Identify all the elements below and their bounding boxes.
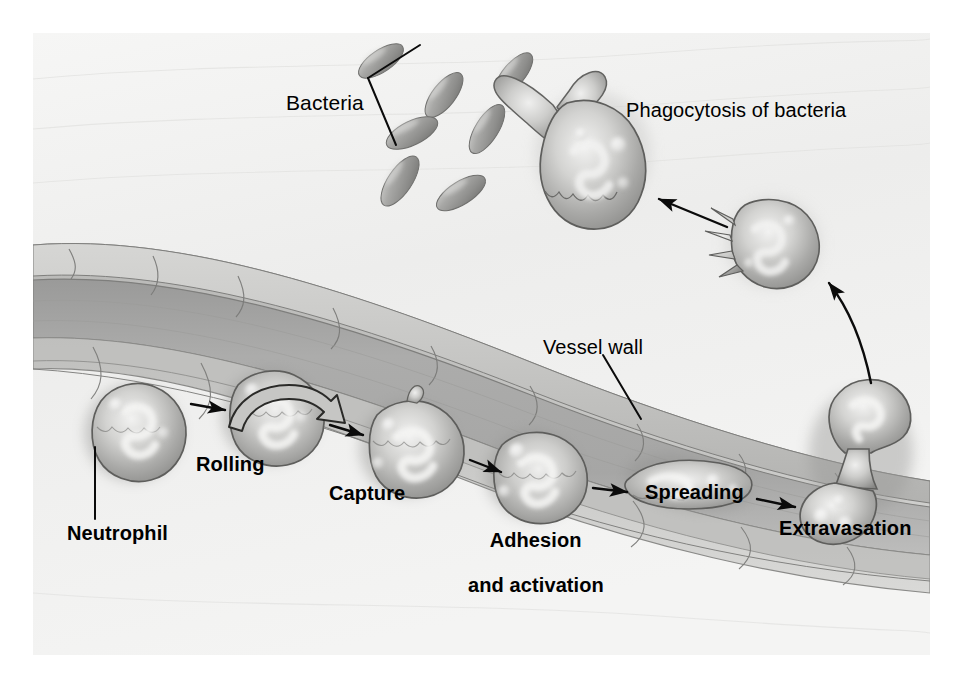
granule (617, 177, 629, 189)
label-adhesion-line2: and activation (468, 574, 604, 596)
granule (372, 457, 384, 469)
label-adhesion-line1: Adhesion (490, 529, 582, 551)
granule (109, 398, 123, 412)
granule (157, 427, 169, 439)
label-neutrophil: Neutrophil (67, 522, 168, 544)
label-adhesion-and-activation: Adhesion and activation (429, 507, 609, 619)
granule (744, 258, 754, 268)
neutrophil-free-flowing (85, 383, 186, 481)
label-spreading: Spreading (645, 481, 744, 503)
granule (382, 418, 396, 432)
granule (783, 215, 795, 227)
label-rolling: Rolling (196, 453, 264, 475)
label-capture: Capture (329, 482, 405, 504)
granule (498, 485, 510, 497)
granule (833, 495, 845, 507)
granule (575, 128, 587, 140)
illustration-plate: Bacteria Phagocytosis of bacteria Vessel… (33, 33, 930, 655)
label-bacteria: Bacteria (286, 91, 364, 115)
granule (295, 411, 307, 423)
label-extravasation: Extravasation (779, 517, 911, 539)
label-phagocytosis-of-bacteria: Phagocytosis of bacteria (626, 99, 846, 121)
figure-root: Bacteria Phagocytosis of bacteria Vessel… (0, 0, 967, 689)
label-vessel-wall: Vessel wall (543, 336, 643, 358)
cell-body (731, 200, 819, 289)
granule (509, 443, 525, 459)
granule (610, 137, 626, 153)
